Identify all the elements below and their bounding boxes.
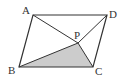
- segment-ap: [33, 15, 78, 43]
- shaded-triangle-pbc: [19, 43, 93, 67]
- label-d: D: [109, 8, 117, 20]
- parallelogram-diagram: A D B C P: [0, 0, 129, 82]
- label-p: P: [74, 29, 80, 41]
- label-a: A: [22, 4, 30, 16]
- label-c: C: [95, 65, 102, 77]
- label-b: B: [8, 64, 15, 76]
